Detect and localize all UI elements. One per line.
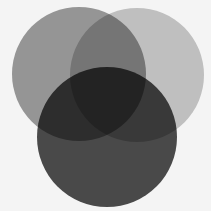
venn-circle-bottom	[37, 67, 177, 207]
venn-diagram-canvas	[0, 0, 211, 211]
venn-diagram	[0, 0, 211, 211]
